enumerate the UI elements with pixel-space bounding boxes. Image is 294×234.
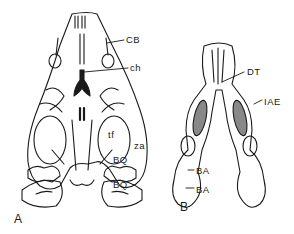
label-cb: CB bbox=[126, 35, 140, 45]
label-bq-upper: BQ bbox=[113, 155, 128, 165]
label-dt: DT bbox=[247, 67, 261, 77]
label-iae: IAE bbox=[264, 97, 281, 107]
panel-label-b: B bbox=[180, 201, 188, 213]
label-tf: tf bbox=[108, 130, 114, 140]
label-ch: ch bbox=[130, 63, 141, 73]
panel-label-a: A bbox=[14, 213, 22, 225]
label-za: za bbox=[134, 141, 145, 151]
label-bq-lower: BQ bbox=[113, 180, 128, 190]
label-ba-upper: BA bbox=[196, 166, 210, 176]
anatomical-diagram bbox=[0, 0, 294, 234]
label-ba-lower: BA bbox=[196, 185, 210, 195]
